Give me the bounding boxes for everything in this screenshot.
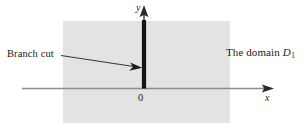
domain-label-prefix: The domain [226, 46, 283, 58]
shaded-domain-rect [63, 21, 230, 123]
figure-container: Branch cut The domain D1 y x 0 [0, 0, 308, 133]
domain-label-subscript: 1 [291, 51, 295, 60]
diagram-canvas [0, 0, 308, 133]
branch-cut-label: Branch cut [7, 49, 54, 60]
origin-label: 0 [138, 93, 143, 104]
domain-label-symbol: D [283, 46, 291, 58]
domain-label: The domain D1 [226, 47, 295, 60]
y-axis-label: y [136, 3, 140, 13]
x-axis-label: x [265, 93, 269, 103]
